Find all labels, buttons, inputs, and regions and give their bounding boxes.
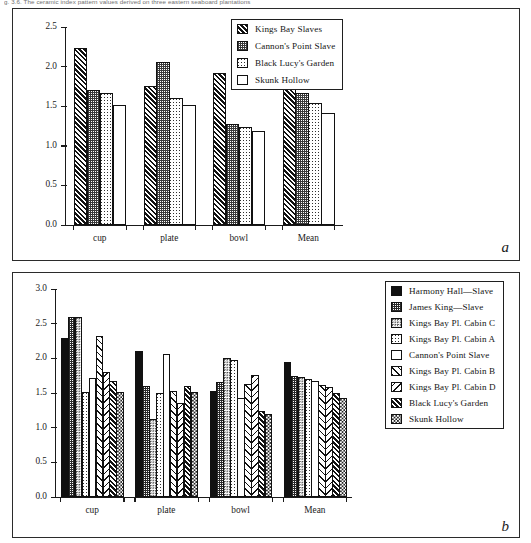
legend-swatch-icon bbox=[391, 382, 402, 392]
legend-item-label: Skunk Hollow bbox=[255, 75, 310, 85]
legend-item-label: Kings Bay Slaves bbox=[255, 24, 322, 34]
x-axis-tick bbox=[283, 497, 284, 502]
y-axis-tick bbox=[61, 66, 67, 67]
x-axis-category-label: Mean bbox=[274, 233, 344, 243]
legend-swatch-icon bbox=[391, 414, 402, 424]
legend-swatch-icon bbox=[391, 334, 402, 344]
y-axis-tick bbox=[61, 225, 67, 226]
legend-swatch-icon bbox=[237, 41, 248, 51]
bar bbox=[191, 392, 199, 497]
bar bbox=[283, 78, 296, 225]
bar bbox=[100, 93, 113, 225]
x-axis-category-label: Mean bbox=[278, 505, 352, 515]
x-axis-tick bbox=[143, 225, 144, 230]
y-axis-tick bbox=[61, 185, 67, 186]
bar bbox=[321, 113, 334, 225]
y-axis-tick-label: 0.5 bbox=[29, 179, 57, 189]
figure-caption-top: g. 3.6. The ceramic index pattern values… bbox=[4, 0, 527, 6]
bar bbox=[213, 73, 226, 225]
legend-item-label: Skunk Hollow bbox=[409, 414, 464, 424]
legend-item: Skunk Hollow bbox=[391, 414, 496, 424]
plot-area-b: 0.00.51.01.52.02.53.0cupplatebowlMean bbox=[55, 289, 352, 497]
legend-item-label: Kings Bay Pl. Cabin C bbox=[409, 318, 495, 328]
y-axis-tick-label: 0.0 bbox=[19, 491, 47, 501]
y-axis-tick bbox=[51, 358, 57, 359]
bar bbox=[265, 414, 273, 497]
bar bbox=[169, 98, 182, 225]
bar bbox=[252, 131, 265, 225]
x-axis-tick bbox=[60, 497, 61, 502]
x-axis-tick bbox=[73, 225, 74, 230]
legend-item: Skunk Hollow bbox=[237, 75, 335, 85]
chart-panel-b: 0.00.51.01.52.02.53.0cupplatebowlMean Ha… bbox=[12, 272, 520, 538]
x-axis-tick bbox=[212, 225, 213, 230]
legend-item-label: Kings Bay Pl. Cabin B bbox=[409, 366, 495, 376]
x-axis-category-label: bowl bbox=[204, 233, 274, 243]
x-axis-tick bbox=[209, 497, 210, 502]
bar bbox=[295, 93, 308, 225]
figure-root: g. 3.6. The ceramic index pattern values… bbox=[0, 0, 531, 543]
legend-item: Kings Bay Pl. Cabin D bbox=[391, 382, 496, 392]
y-axis-tick-label: 3.0 bbox=[19, 283, 47, 293]
y-axis-tick-label: 1.0 bbox=[19, 422, 47, 432]
legend-item: Cannon's Point Slave bbox=[391, 350, 496, 360]
legend-swatch-icon bbox=[391, 286, 402, 296]
panel-letter-b: b bbox=[502, 518, 510, 535]
panel-letter-a: a bbox=[502, 239, 510, 256]
legend-item-label: Kings Bay Pl. Cabin A bbox=[409, 334, 495, 344]
x-axis-tick bbox=[346, 497, 347, 502]
chart-legend-b: Harmony Hall—SlaveJames King—SlaveKings … bbox=[385, 281, 504, 429]
y-axis-tick bbox=[51, 323, 57, 324]
y-axis-tick-label: 2.0 bbox=[29, 61, 57, 71]
x-axis-tick bbox=[195, 225, 196, 230]
y-axis-tick-label: 1.5 bbox=[29, 100, 57, 110]
legend-item: Kings Bay Pl. Cabin B bbox=[391, 366, 496, 376]
x-axis-category-label: plate bbox=[135, 233, 205, 243]
x-axis-tick bbox=[123, 497, 124, 502]
x-axis-tick bbox=[334, 225, 335, 230]
x-axis-tick bbox=[265, 225, 266, 230]
bar bbox=[113, 105, 126, 225]
x-axis-tick bbox=[134, 497, 135, 502]
y-axis-tick-label: 2.0 bbox=[19, 352, 47, 362]
legend-item: James King—Slave bbox=[391, 302, 496, 312]
bar bbox=[156, 62, 169, 225]
legend-item-label: Black Lucy's Garden bbox=[409, 398, 488, 408]
chart-legend-a: Kings Bay SlavesCannon's Point SlaveBlac… bbox=[231, 19, 343, 90]
legend-item: Kings Bay Slaves bbox=[237, 24, 335, 34]
x-axis-tick bbox=[282, 225, 283, 230]
y-axis-tick-label: 2.5 bbox=[29, 21, 57, 31]
bar bbox=[339, 398, 347, 497]
x-axis-tick bbox=[198, 497, 199, 502]
y-axis-tick bbox=[61, 27, 67, 28]
bar bbox=[239, 127, 252, 225]
legend-swatch-icon bbox=[391, 398, 402, 408]
legend-item-label: Harmony Hall—Slave bbox=[409, 286, 493, 296]
y-axis-tick bbox=[61, 106, 67, 107]
legend-item: Kings Bay Pl. Cabin A bbox=[391, 334, 496, 344]
y-axis-tick-label: 1.0 bbox=[29, 140, 57, 150]
legend-item: Harmony Hall—Slave bbox=[391, 286, 496, 296]
x-axis-line bbox=[55, 497, 352, 498]
legend-item: Kings Bay Pl. Cabin C bbox=[391, 318, 496, 328]
y-axis-tick-label: 1.5 bbox=[19, 387, 47, 397]
y-axis-tick bbox=[51, 393, 57, 394]
y-axis-tick bbox=[51, 497, 57, 498]
x-axis-category-label: bowl bbox=[204, 505, 278, 515]
legend-swatch-icon bbox=[391, 302, 402, 312]
legend-item-label: Kings Bay Pl. Cabin D bbox=[409, 382, 496, 392]
legend-item: Black Lucy's Garden bbox=[391, 398, 496, 408]
legend-item-label: Cannon's Point Slave bbox=[409, 350, 489, 360]
y-axis-tick bbox=[51, 462, 57, 463]
legend-item: Black Lucy's Garden bbox=[237, 58, 335, 68]
bar bbox=[182, 105, 195, 225]
bar bbox=[74, 48, 87, 225]
legend-swatch-icon bbox=[237, 75, 248, 85]
y-axis-line bbox=[65, 27, 66, 225]
bar bbox=[144, 86, 157, 225]
bar bbox=[308, 103, 321, 225]
legend-item: Cannon's Point Slave bbox=[237, 41, 335, 51]
legend-swatch-icon bbox=[391, 366, 402, 376]
legend-swatch-icon bbox=[237, 58, 248, 68]
x-axis-line bbox=[65, 225, 343, 226]
